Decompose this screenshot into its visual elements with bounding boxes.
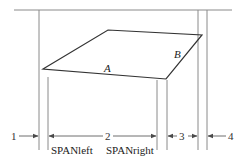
shape-label-b: B [174, 48, 181, 60]
shape-label-a: A [103, 62, 111, 74]
span-diagram: A B 1 2 3 4 SPANleft SPANright [0, 0, 242, 161]
region-label-3: 3 [179, 130, 185, 142]
region-label-1: 1 [11, 130, 17, 142]
span-right-label: SPANright [106, 144, 154, 156]
region-label-4: 4 [228, 130, 234, 142]
region-label-2: 2 [105, 130, 111, 142]
span-left-label: SPANleft [51, 144, 93, 156]
